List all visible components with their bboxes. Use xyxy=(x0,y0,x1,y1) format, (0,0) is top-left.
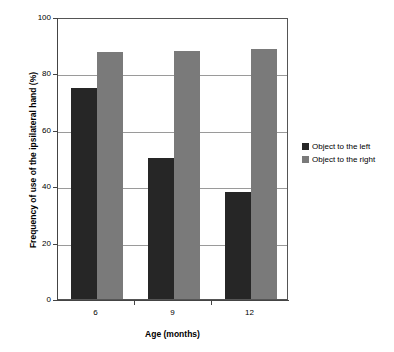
y-axis-tick-mark xyxy=(53,187,57,188)
x-axis-tick-label: 12 xyxy=(230,308,270,317)
bar-chart: 020406080100 6912 Frequency of use of th… xyxy=(0,0,394,352)
y-axis-tick-mark xyxy=(53,244,57,245)
y-axis-tick-labels: 020406080100 xyxy=(0,0,51,352)
y-axis-tick-label: 60 xyxy=(42,127,51,135)
bar xyxy=(225,192,251,299)
y-axis-tick-label: 20 xyxy=(42,240,51,248)
bar xyxy=(251,49,277,299)
y-axis-title: Frequency of use of the ipsilateral hand… xyxy=(28,45,38,275)
x-axis-tick-label: 9 xyxy=(153,308,193,317)
bar xyxy=(97,52,123,299)
y-axis-tick-mark xyxy=(53,300,57,301)
bar xyxy=(71,88,97,300)
x-axis-title: Age (months) xyxy=(57,329,288,339)
y-axis-tick-mark xyxy=(53,18,57,19)
plot-area xyxy=(57,18,288,300)
y-axis-tick-label: 80 xyxy=(42,70,51,78)
legend-label: Object to the left xyxy=(312,142,370,151)
legend: Object to the leftObject to the right xyxy=(302,140,394,166)
y-axis-tick-label: 0 xyxy=(47,296,51,304)
x-axis-tick-mark xyxy=(134,301,135,305)
legend-item: Object to the left xyxy=(302,140,394,152)
y-axis-tick-mark xyxy=(53,74,57,75)
y-axis-line xyxy=(57,18,58,301)
bar xyxy=(174,51,200,299)
x-axis-tick-mark xyxy=(211,301,212,305)
legend-label: Object to the right xyxy=(312,155,375,164)
legend-item: Object to the right xyxy=(302,153,394,165)
y-axis-tick-label: 100 xyxy=(38,14,51,22)
legend-swatch-icon xyxy=(302,143,309,150)
y-axis-tick-mark xyxy=(53,131,57,132)
x-axis-tick-label: 6 xyxy=(76,308,116,317)
y-axis-tick-label: 40 xyxy=(42,183,51,191)
legend-swatch-icon xyxy=(302,156,309,163)
bar xyxy=(148,158,174,299)
x-axis-line xyxy=(57,300,289,301)
